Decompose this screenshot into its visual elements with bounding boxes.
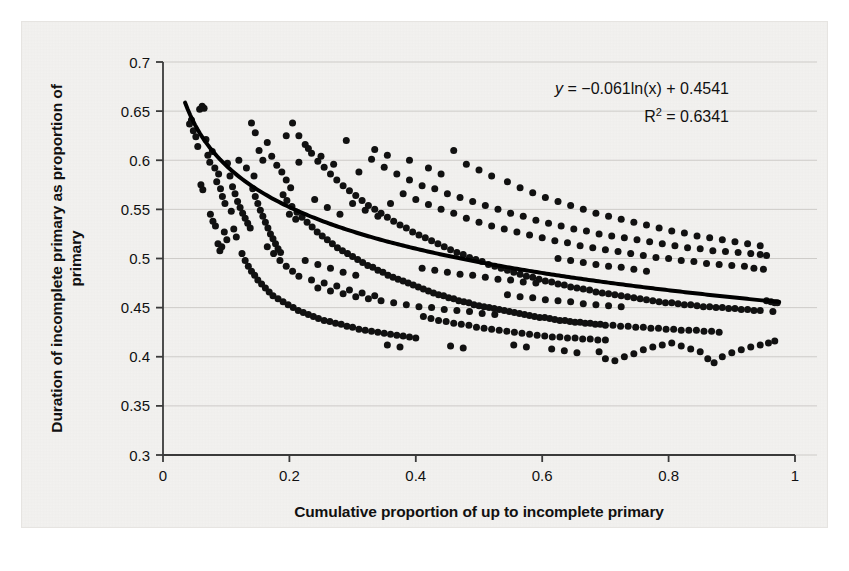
scatter-point <box>580 285 587 292</box>
scatter-point <box>618 303 625 310</box>
scatter-points <box>186 103 781 366</box>
scatter-point <box>771 338 778 345</box>
scatter-point <box>608 232 615 239</box>
scatter-point <box>670 326 677 333</box>
scatter-point <box>757 251 764 258</box>
scatter-point <box>529 189 536 196</box>
scatter-point <box>362 207 369 214</box>
scatter-point <box>212 223 219 230</box>
scatter-point <box>384 341 391 348</box>
scatter-point <box>662 299 669 306</box>
scatter-point <box>463 161 470 168</box>
scatter-point <box>450 147 457 154</box>
scatter-point <box>548 279 555 286</box>
y-tick-label: 0.5 <box>129 250 150 267</box>
scatter-point <box>457 194 464 201</box>
scatter-point <box>419 265 426 272</box>
scatter-point <box>482 274 489 281</box>
scatter-point <box>289 119 296 126</box>
scatter-point <box>556 334 563 341</box>
scatter-point <box>656 225 663 232</box>
scatter-point <box>482 202 489 209</box>
scatter-point <box>251 172 258 179</box>
scatter-point <box>510 341 517 348</box>
scatter-point <box>428 237 435 244</box>
scatter-point <box>232 190 239 197</box>
scatter-point <box>447 342 454 349</box>
scatter-point <box>374 329 381 336</box>
scatter-point <box>302 257 309 264</box>
scatter-point <box>643 296 650 303</box>
scatter-point <box>678 327 685 334</box>
scatter-point <box>425 201 432 208</box>
scatter-point <box>422 234 429 241</box>
scatter-point <box>308 277 315 284</box>
scatter-point <box>542 194 549 201</box>
scatter-point <box>757 341 764 348</box>
scatter-point <box>640 346 647 353</box>
scatter-point <box>504 291 511 298</box>
scatter-point <box>247 225 254 232</box>
scatter-point <box>491 311 498 318</box>
scatter-point <box>305 145 312 152</box>
scatter-point <box>443 318 450 325</box>
scatter-point <box>561 347 568 354</box>
scatter-point <box>194 143 201 150</box>
scatter-point <box>333 283 340 290</box>
scatter-point <box>558 223 565 230</box>
scatter-point <box>747 343 754 350</box>
x-tick-label: 0.6 <box>532 467 553 484</box>
scatter-point <box>555 297 562 304</box>
scatter-point <box>567 257 574 264</box>
scatter-point <box>643 268 650 275</box>
scatter-point <box>640 252 647 259</box>
scatter-point <box>252 129 259 136</box>
scatter-point <box>719 304 726 311</box>
scatter-point <box>460 344 467 351</box>
trendline <box>185 103 779 302</box>
scatter-point <box>687 345 694 352</box>
scatter-point <box>476 167 483 174</box>
scatter-point <box>580 206 587 213</box>
scatter-point <box>611 357 618 364</box>
scatter-point <box>283 176 290 183</box>
scatter-point <box>324 204 331 211</box>
scatter-point <box>541 333 548 340</box>
scatter-point <box>431 185 438 192</box>
scatter-point <box>548 345 555 352</box>
scatter-point <box>630 266 637 273</box>
scatter-point <box>523 273 530 280</box>
scatter-point <box>681 229 688 236</box>
scatter-point <box>722 248 729 255</box>
scatter-point <box>340 182 347 189</box>
scatter-point <box>444 269 451 276</box>
scatter-point <box>561 282 568 289</box>
scatter-point <box>349 324 356 331</box>
y-tick-label: 0.55 <box>121 201 150 218</box>
scatter-point <box>393 171 400 178</box>
regression-equation-label: y = −0.061ln(x) + 0.4541 <box>554 80 729 97</box>
scatter-point <box>706 234 713 241</box>
scatter-point <box>580 300 587 307</box>
scatter-point <box>621 353 628 360</box>
scatter-point <box>649 343 656 350</box>
scatter-point <box>703 260 710 267</box>
scatter-point <box>206 159 213 166</box>
scatter-point <box>549 334 556 341</box>
scatter-point <box>463 215 470 222</box>
scatter-point <box>659 341 666 348</box>
scatter-point <box>656 298 663 305</box>
scatter-point <box>551 237 558 244</box>
scatter-point <box>264 139 271 146</box>
scatter-point <box>406 157 413 164</box>
scatter-point <box>381 164 388 171</box>
scatter-point <box>700 303 707 310</box>
scatter-point <box>504 178 511 185</box>
scatter-point <box>685 327 692 334</box>
scatter-point <box>618 292 625 299</box>
scatter-point <box>270 250 277 257</box>
scatter-point <box>735 249 742 256</box>
scatter-point <box>230 226 237 233</box>
x-tick-label: 1 <box>791 467 799 484</box>
scatter-point <box>580 259 587 266</box>
